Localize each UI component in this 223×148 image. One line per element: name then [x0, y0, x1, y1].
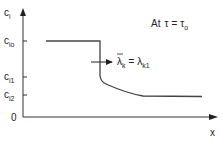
y-axis-label: ci: [4, 7, 11, 20]
x-axis-label: x: [210, 127, 215, 138]
concentration-profile-diagram: ci cio ci1 ci2 0 x Atτ=τo λk=λk1: [0, 0, 223, 148]
diagram-title: Atτ=τo: [151, 18, 188, 31]
x-axis-arrow-icon: [209, 114, 218, 120]
tick-label-ci1: ci1: [4, 71, 15, 84]
tick-label-zero: 0: [11, 112, 17, 123]
tick-label-cio: cio: [4, 35, 15, 48]
y-axis-arrow-icon: [20, 8, 26, 16]
front-annotation: λk=λk1: [117, 56, 150, 69]
tick-label-ci2: ci2: [4, 89, 15, 102]
